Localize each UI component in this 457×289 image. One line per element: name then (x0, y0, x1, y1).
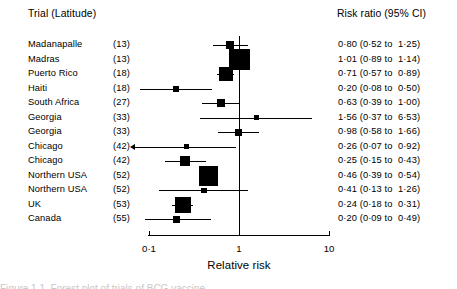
ci-left-arrow-icon (130, 144, 135, 150)
axis-tick-label: 0·1 (142, 243, 156, 254)
axis-tick-label: 1 (236, 243, 241, 254)
x-axis-label: Relative risk (207, 259, 270, 271)
effect-estimate-box (173, 216, 180, 223)
effect-estimate-box (199, 166, 219, 186)
effect-estimate-box (226, 41, 234, 49)
effect-estimate-box (254, 115, 259, 120)
effect-estimate-box (219, 67, 233, 81)
plot-area: 0·1110 Relative risk (0, 0, 457, 289)
effect-estimate-box (175, 197, 191, 213)
effect-estimate-box (235, 129, 242, 136)
effect-estimate-box (217, 99, 225, 107)
axis-tick (239, 231, 240, 236)
effect-estimate-box (201, 188, 206, 193)
forest-plot-figure: Trial (Latitude) Risk ratio (95% CI) Mad… (0, 0, 457, 289)
figure-caption-partial: Figure 1.1 Forest plot of trials of BCG … (0, 283, 457, 289)
effect-estimate-box (173, 86, 179, 92)
effect-estimate-box (184, 144, 189, 149)
axis-tick-label: 10 (324, 243, 335, 254)
axis-tick (329, 231, 330, 236)
axis-tick (149, 231, 150, 236)
effect-estimate-box (180, 156, 190, 166)
